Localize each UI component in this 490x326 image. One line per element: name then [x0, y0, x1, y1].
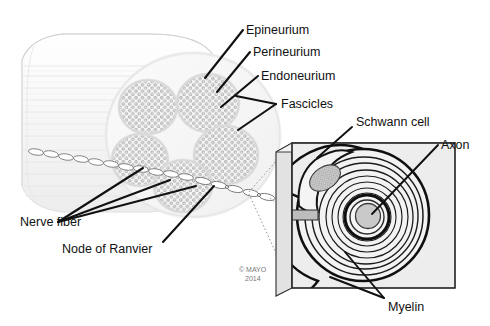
mesaxon-tab: [292, 210, 318, 220]
axon-core: [356, 204, 381, 229]
fascicle: [154, 160, 212, 212]
nerve-anatomy-diagram: Epineurium Perineurium Endoneurium Fasci…: [0, 0, 490, 326]
fascicle: [177, 74, 239, 132]
label-nerve-fiber: Nerve fiber: [20, 215, 81, 229]
inset-side-panel: [276, 143, 292, 296]
fascicle: [119, 80, 177, 134]
label-schwann-cell: Schwann cell: [356, 115, 430, 129]
copyright-line-2: 2014: [245, 275, 261, 282]
label-axon: Axon: [441, 138, 470, 152]
label-myelin: Myelin: [388, 300, 424, 314]
copyright-line-1: © MAYO: [239, 266, 267, 273]
label-fascicles: Fascicles: [281, 97, 333, 111]
label-perineurium: Perineurium: [253, 45, 320, 59]
label-epineurium: Epineurium: [246, 23, 309, 37]
label-endoneurium: Endoneurium: [261, 69, 335, 83]
label-node-of-ranvier: Node of Ranvier: [62, 242, 152, 256]
